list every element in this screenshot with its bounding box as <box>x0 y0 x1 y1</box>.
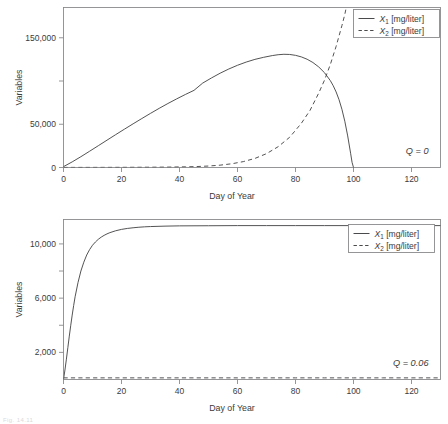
x-tick-label: 80 <box>291 386 301 396</box>
chart-panel-top: 020406080100120050,000150,000VariablesDa… <box>0 0 448 212</box>
legend-var-unit: [mg/liter] <box>384 229 419 239</box>
x-tick-label: 120 <box>404 386 418 396</box>
legend-var-unit: [mg/liter] <box>389 26 424 36</box>
footer-text-fragment: Fig. 14.11 <box>3 417 33 423</box>
legend: X1 [mg/liter]X2 [mg/liter] <box>349 225 435 253</box>
x-tick-label: 100 <box>346 386 360 396</box>
x-tick-label: 20 <box>117 386 127 396</box>
y-tick-label: 6,000 <box>35 293 57 303</box>
y-axis-title: Variables <box>14 69 24 106</box>
x-axis: 020406080100120 <box>61 168 419 185</box>
x-tick-label: 0 <box>61 386 66 396</box>
y-tick-label: 150,000 <box>25 33 56 43</box>
chart-panel-bottom: 0204060801001202,0006,00010,000Variables… <box>0 212 448 424</box>
legend-var-unit: [mg/liter] <box>384 241 419 251</box>
y-tick-label: 50,000 <box>30 119 56 129</box>
x-tick-label: 40 <box>175 174 185 184</box>
figure-container: 020406080100120050,000150,000VariablesDa… <box>0 0 448 424</box>
x-tick-label: 20 <box>117 174 127 184</box>
y-tick-label: 2,000 <box>35 347 57 357</box>
x-axis-title: Day of Year <box>209 191 255 201</box>
y-axis-title: Variables <box>14 281 24 318</box>
x-tick-label: 120 <box>404 174 418 184</box>
x-tick-label: 100 <box>346 174 360 184</box>
series-group <box>64 8 354 168</box>
y-axis: 050,000150,000 <box>25 33 63 173</box>
y-axis: 2,0006,00010,000 <box>30 239 64 357</box>
y-tick-label: 0 <box>51 163 56 173</box>
x-tick-label: 0 <box>61 174 66 184</box>
legend: X1 [mg/liter]X2 [mg/liter] <box>354 10 440 38</box>
annotation-label: Q = 0.06 <box>393 358 429 368</box>
x-tick-label: 40 <box>175 386 185 396</box>
series-path-2 <box>64 8 347 168</box>
x-tick-label: 80 <box>291 174 301 184</box>
legend-var-unit: [mg/liter] <box>389 14 424 24</box>
x-axis-title: Day of Year <box>209 403 255 413</box>
x-tick-label: 60 <box>233 174 243 184</box>
annotation-label: Q = 0 <box>406 146 430 156</box>
x-axis: 020406080100120 <box>61 380 419 397</box>
y-tick-label: 10,000 <box>30 239 56 249</box>
x-tick-label: 60 <box>233 386 243 396</box>
